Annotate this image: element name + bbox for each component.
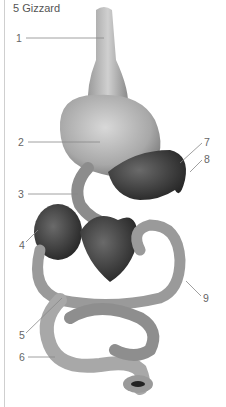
label-1: 1 [16, 32, 22, 44]
label-3: 3 [18, 188, 24, 200]
digestive-tract-illustration [0, 0, 226, 407]
label-2: 2 [18, 136, 24, 148]
label-7: 7 [204, 136, 210, 148]
label-9: 9 [203, 292, 209, 304]
label-6: 6 [19, 351, 25, 363]
esophagus [88, 7, 129, 110]
label-8: 8 [204, 153, 210, 165]
label-5: 5 [19, 329, 25, 341]
label-4: 4 [19, 239, 25, 251]
